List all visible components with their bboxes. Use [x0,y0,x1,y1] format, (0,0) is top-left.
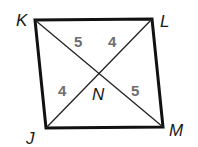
segment-length-ln: 4 [108,33,117,50]
vertex-label-m: M [169,121,184,140]
segment-length-mn: 5 [131,82,139,99]
quadrilateral-diagram: K L J M N 5 4 4 5 [0,0,198,147]
diagonal-lj [46,19,152,128]
segment-length-kn: 5 [74,33,82,50]
vertex-label-l: L [160,12,169,31]
segment-length-jn: 4 [58,82,67,99]
vertex-label-k: K [16,11,28,30]
vertex-label-j: J [25,129,35,147]
intersection-label-n: N [92,85,105,104]
